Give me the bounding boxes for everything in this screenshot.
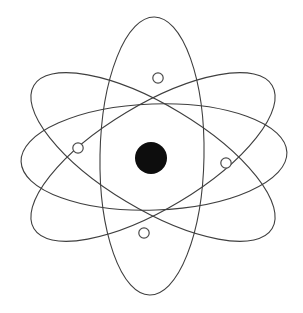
electron-right bbox=[221, 158, 231, 168]
nucleus-group bbox=[135, 142, 167, 174]
atom-diagram bbox=[0, 0, 303, 313]
electron-top bbox=[153, 73, 163, 83]
electron-bottom bbox=[139, 228, 149, 238]
atom-svg-canvas bbox=[0, 0, 303, 313]
electron-left bbox=[73, 143, 83, 153]
nucleus bbox=[135, 142, 167, 174]
